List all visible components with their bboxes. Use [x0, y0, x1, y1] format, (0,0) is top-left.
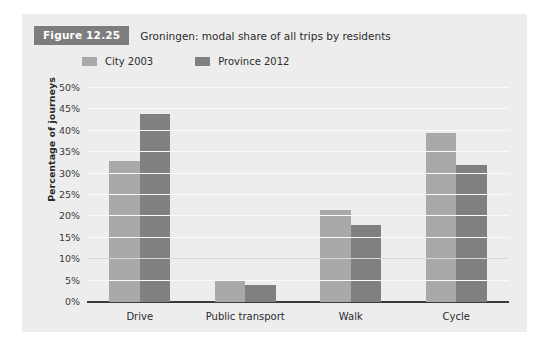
plot-area: DrivePublic transportWalkCycle 0%5%10%15… — [87, 88, 509, 302]
y-axis-tick-label: 40% — [59, 124, 80, 135]
y-axis-tick-label: 5% — [65, 274, 80, 285]
gridline: 15% — [87, 237, 509, 238]
x-axis-tick-label: Cycle — [443, 311, 470, 322]
x-axis-tick-label: Drive — [126, 311, 153, 322]
figure-panel: Figure 12.25 Groningen: modal share of a… — [22, 14, 527, 332]
bar-group: Public transport — [193, 88, 299, 302]
y-axis-tick-label: 10% — [59, 253, 80, 264]
gridline: 5% — [87, 280, 509, 281]
bar-group: Walk — [298, 88, 404, 302]
bars-layer: DrivePublic transportWalkCycle — [87, 88, 509, 302]
bar — [456, 165, 486, 302]
y-axis-tick-label: 45% — [59, 103, 80, 114]
bar — [320, 210, 350, 302]
gridline: 35% — [87, 151, 509, 152]
gridline: 45% — [87, 108, 509, 109]
y-axis-tick-label: 50% — [59, 82, 80, 93]
gridline: 40% — [87, 130, 509, 131]
y-axis-tick-label: 30% — [59, 167, 80, 178]
bar — [140, 114, 170, 302]
gridline: 0% — [87, 301, 509, 302]
gridline: 10% — [87, 258, 509, 259]
bar-group: Drive — [87, 88, 193, 302]
y-axis-title: Percentage of journeys — [46, 75, 57, 205]
figure-root: Figure 12.25 Groningen: modal share of a… — [0, 0, 554, 346]
y-axis-tick-label: 0% — [65, 296, 80, 307]
gridline: 25% — [87, 194, 509, 195]
gridline: 30% — [87, 173, 509, 174]
bar — [215, 281, 245, 302]
y-axis-tick-label: 15% — [59, 231, 80, 242]
bar — [426, 133, 456, 302]
bar-group: Cycle — [404, 88, 510, 302]
gridline: 50% — [87, 87, 509, 88]
x-axis-tick-label: Walk — [339, 311, 363, 322]
gridline: 20% — [87, 215, 509, 216]
bar — [245, 285, 275, 302]
y-axis-tick-label: 35% — [59, 146, 80, 157]
bar — [109, 161, 139, 302]
y-axis-tick-label: 25% — [59, 189, 80, 200]
plot-wrapper: Percentage of journeys DrivePublic trans… — [22, 14, 527, 332]
x-axis-tick-label: Public transport — [206, 311, 285, 322]
y-axis-tick-label: 20% — [59, 210, 80, 221]
